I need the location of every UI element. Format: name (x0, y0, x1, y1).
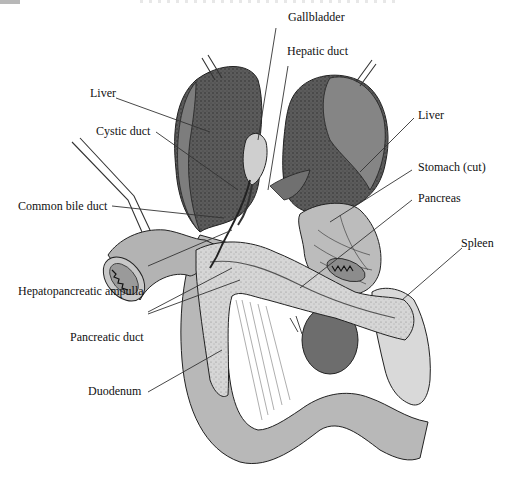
label-duodenum: Duodenum (88, 384, 141, 398)
label-hepatopancreatic-ampulla: Hepatopancreatic ampulla (18, 284, 144, 298)
label-liver-right: Liver (418, 108, 444, 122)
label-common-bile-duct: Common bile duct (18, 199, 107, 213)
anatomy-diagram: Gallbladder Hepatic duct Liver Cystic du… (0, 0, 508, 480)
label-pancreatic-duct: Pancreatic duct (70, 330, 144, 344)
label-hepatic-duct: Hepatic duct (287, 44, 348, 58)
label-liver-left: Liver (90, 86, 116, 100)
label-gallbladder: Gallbladder (288, 10, 345, 24)
illustration (0, 0, 508, 480)
label-cystic-duct: Cystic duct (96, 124, 150, 138)
liver-right-shape (270, 75, 388, 214)
label-stomach: Stomach (cut) (418, 160, 486, 174)
label-pancreas: Pancreas (418, 191, 461, 205)
label-spleen: Spleen (461, 236, 494, 250)
